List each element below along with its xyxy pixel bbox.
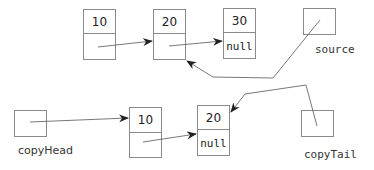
copy-tail-pointer: copyTail [302,111,357,162]
copy-head-pointer: copyHead [15,111,74,158]
source-pointer: source [304,9,355,57]
source-node-1-data: 10 [92,15,107,29]
copy-node-2: 20 null [198,106,230,156]
copy-node-1: 10 [130,108,162,158]
source-node-2-data: 20 [162,15,177,29]
linked-list-copy-diagram: 10 20 30 null source copyHead 10 20 null [0,0,374,170]
source-node-2: 20 [154,10,186,60]
copy-node-2-data: 20 [206,111,221,125]
source-node-1: 10 [84,10,116,60]
copy-head-label: copyHead [18,144,73,157]
copy-node-2-next: null [200,137,227,150]
source-node-3-data: 30 [232,14,247,28]
source-node-3-next: null [226,40,253,53]
copy-node-1-data: 10 [138,113,153,127]
source-node-3: 30 null [224,9,256,59]
source-pointer-label: source [315,43,355,56]
copy-tail-label: copyTail [304,148,357,161]
